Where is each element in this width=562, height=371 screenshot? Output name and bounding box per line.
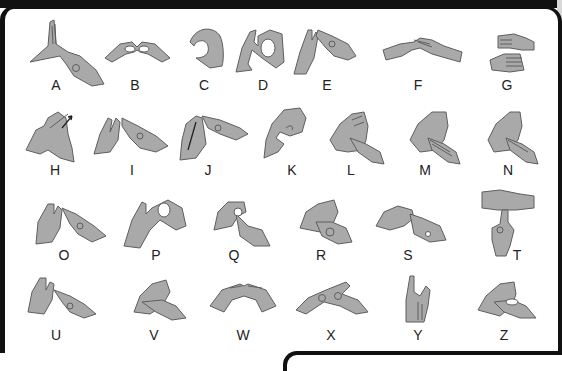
hand-icon-w (210, 284, 276, 312)
letter-label-m: M (419, 163, 431, 177)
letter-label-y: Y (413, 328, 422, 342)
letter-label-x: X (326, 328, 335, 342)
hand-icon-l (330, 112, 384, 164)
letter-label-d: D (258, 78, 268, 92)
hand-icon-p (124, 200, 186, 248)
hand-icon-i (94, 118, 168, 154)
letter-label-g: G (502, 78, 513, 92)
hand-icon-u (28, 278, 96, 318)
hand-icon-e (294, 30, 356, 74)
letter-label-n: N (503, 163, 513, 177)
letter-label-i: I (130, 163, 134, 177)
hand-icon-s (376, 206, 446, 242)
letter-label-z: Z (500, 328, 509, 342)
hand-icon-g (490, 34, 534, 72)
hand-icon-o (36, 204, 106, 244)
letter-label-h: H (50, 163, 60, 177)
letter-label-o: O (59, 248, 70, 262)
hand-icon-y (406, 276, 430, 322)
letter-label-t: T (513, 248, 522, 262)
letter-label-q: Q (229, 248, 240, 262)
letter-label-v: V (149, 328, 158, 342)
hand-icon-n (488, 112, 538, 164)
hand-icon-r (300, 200, 352, 244)
hand-icon-j (180, 116, 248, 160)
letter-label-c: C (199, 78, 209, 92)
hand-icon-z (478, 282, 536, 318)
hand-icon-q (214, 202, 270, 246)
letter-label-r: R (316, 248, 326, 262)
letter-label-u: U (51, 328, 61, 342)
hand-icon-f (383, 38, 462, 62)
hand-icon-c (190, 29, 223, 68)
letter-label-j: J (205, 163, 212, 177)
letter-label-l: L (347, 163, 355, 177)
letter-label-b: B (130, 78, 139, 92)
hand-icon-m (410, 112, 460, 164)
hand-icon-b (105, 42, 170, 62)
hand-icon-t (482, 190, 534, 256)
hand-icon-v (134, 280, 186, 320)
hand-icon-k (264, 108, 306, 158)
hand-icon-h (26, 112, 74, 162)
letter-label-p: P (151, 248, 160, 262)
letter-label-k: K (287, 163, 296, 177)
hand-icon-d (236, 30, 284, 72)
letter-label-a: A (51, 78, 60, 92)
letter-label-s: S (403, 248, 412, 262)
letter-label-w: W (236, 328, 249, 342)
letter-label-f: F (414, 78, 423, 92)
hand-icon-x (296, 282, 368, 314)
letter-label-e: E (322, 78, 331, 92)
hand-icon-a (30, 20, 104, 86)
